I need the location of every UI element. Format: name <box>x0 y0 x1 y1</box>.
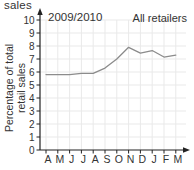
y-tick-label: 1 <box>29 132 35 143</box>
y-tick-label: 0 <box>29 145 35 156</box>
x-tick-label: M <box>173 153 182 165</box>
x-tick-label: D <box>139 153 147 165</box>
annotation-year: 2009/2010 <box>48 11 102 23</box>
x-tick-label: J <box>81 153 86 165</box>
grid-lines <box>40 20 186 150</box>
y-tick-label: 7 <box>29 54 35 65</box>
x-tick-label: A <box>92 153 99 165</box>
x-tick-label: J <box>152 153 157 165</box>
y-axis-arrow-icon <box>37 8 42 15</box>
x-tick-label: S <box>103 153 110 165</box>
x-tick-label: M <box>55 153 64 165</box>
chart-canvas: 012345678910AMJJASONDJFM 2009/2010 All r… <box>0 0 194 170</box>
y-tick-label: 4 <box>29 93 35 104</box>
data-line-all-retailers <box>46 47 176 74</box>
y-tick-label: 2 <box>29 119 35 130</box>
y-tick-label: 3 <box>29 106 35 117</box>
y-tick-label: 6 <box>29 67 35 78</box>
x-tick-label: A <box>44 153 51 165</box>
x-tick-label: O <box>115 153 123 165</box>
y-axis-title-line2: retail sales <box>15 63 27 113</box>
x-tick-label: F <box>163 153 169 165</box>
y-tick-label: 9 <box>29 28 35 39</box>
y-tick-label: 8 <box>29 41 35 52</box>
x-tick-label: N <box>127 153 135 165</box>
y-tick-label: 5 <box>29 80 35 91</box>
y-tick-label: 10 <box>23 15 35 26</box>
tick-labels: 012345678910AMJJASONDJFM <box>23 15 182 166</box>
x-tick-label: J <box>69 153 74 165</box>
y-axis-title-line1: Percentage of total <box>3 44 15 132</box>
chart-screenshot: sales 012345678910AMJJASONDJFM 2009/2010… <box>0 0 194 170</box>
axes <box>37 8 191 154</box>
data-series-layer <box>46 47 176 74</box>
x-axis-arrow-icon <box>183 147 190 152</box>
annotation-series: All retailers <box>133 12 188 24</box>
